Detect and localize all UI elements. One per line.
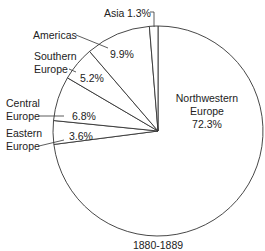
southern-europe-value: 5.2%	[80, 72, 104, 84]
americas-value: 9.9%	[110, 48, 134, 60]
chart-caption: 1880-1889	[133, 239, 183, 251]
asia-label: Asia	[104, 7, 125, 19]
northwestern-europe-label: Northwestern	[176, 92, 239, 104]
eastern-europe-value: 3.6%	[69, 130, 93, 142]
eastern-europe-label-line2: Europe	[6, 140, 40, 152]
central-europe-label: Central	[6, 97, 40, 109]
northwestern-europe-label-line2: Europe	[190, 105, 224, 117]
pie-chart: Northwestern Europe 72.3% Asia 1.3% Amer…	[0, 0, 265, 251]
central-europe-label-line2: Europe	[6, 110, 40, 122]
southern-europe-label: Southern	[34, 50, 77, 62]
eastern-europe-label: Eastern	[6, 127, 42, 139]
americas-label: Americas	[33, 29, 77, 41]
asia-value: 1.3%	[127, 7, 151, 19]
northwestern-europe-value: 72.3%	[192, 118, 222, 130]
southern-europe-label-line2: Europe	[34, 63, 68, 75]
central-europe-value: 6.8%	[72, 110, 96, 122]
